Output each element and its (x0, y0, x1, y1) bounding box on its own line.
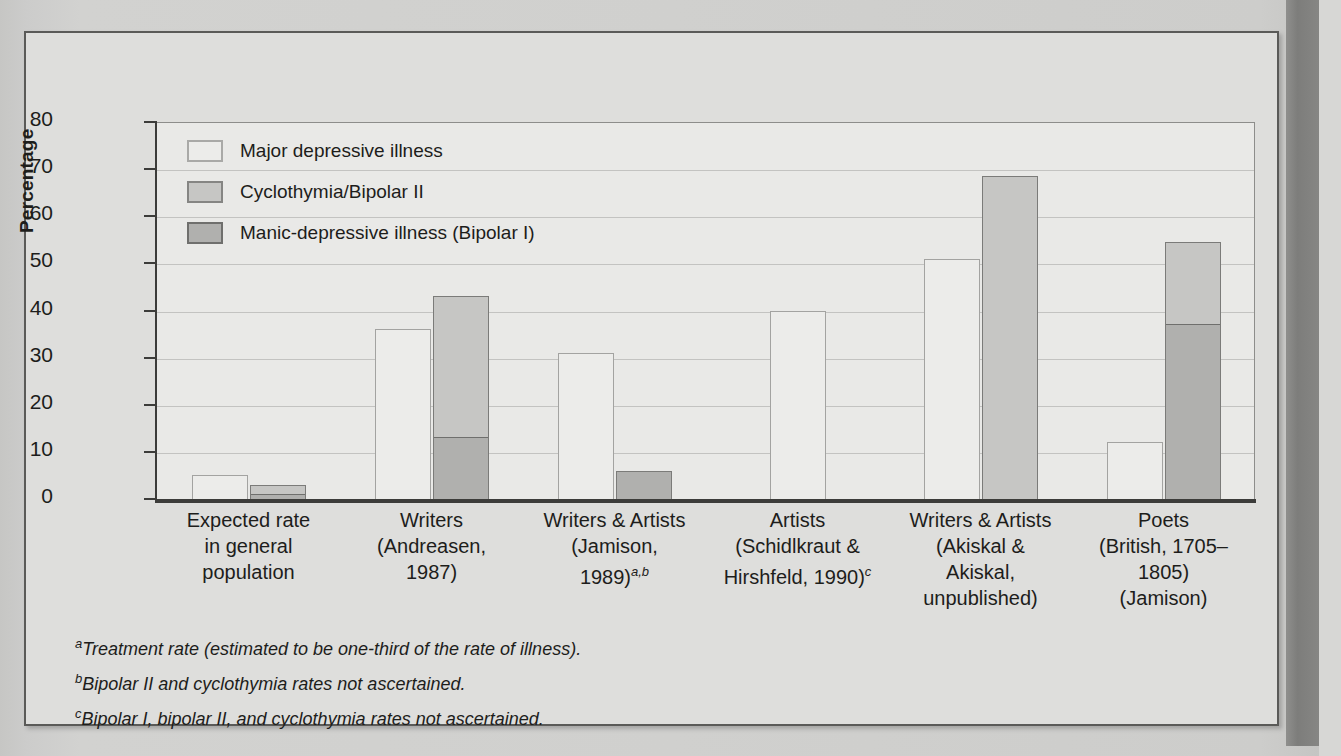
y-axis-tick (144, 168, 155, 170)
y-axis-tick (144, 451, 155, 453)
y-axis-tick-label: 50 (13, 248, 53, 272)
bar-segment (1166, 325, 1220, 499)
y-axis-tick (144, 121, 155, 123)
bar (982, 176, 1038, 499)
x-axis-label-line: Writers (342, 507, 521, 533)
y-axis-tick-label: 30 (13, 343, 53, 367)
x-axis-label-line: (Schidlkraut & (708, 533, 887, 559)
x-axis-label-line: (Jamison, (525, 533, 704, 559)
bar-segment (617, 472, 671, 499)
footnote-marker: c (865, 564, 872, 579)
bar-segment (983, 177, 1037, 499)
x-axis-label-line: Hirshfeld, 1990)c (708, 559, 887, 590)
x-axis-label-line: population (159, 559, 338, 585)
x-axis-label-line: 1987) (342, 559, 521, 585)
bar (616, 471, 672, 499)
gridline (157, 312, 1254, 313)
y-axis-tick-label: 70 (13, 154, 53, 178)
footnote-text: Treatment rate (estimated to be one-thir… (82, 639, 581, 659)
bar-segment (434, 438, 488, 499)
y-axis-tick (144, 404, 155, 406)
bar (558, 353, 614, 499)
bar-segment (434, 297, 488, 438)
y-axis-tick (144, 310, 155, 312)
bar-segment (376, 330, 430, 499)
bar (250, 485, 306, 499)
x-axis-label-line: in general (159, 533, 338, 559)
x-axis-category-labels: Expected ratein generalpopulationWriters… (157, 507, 1255, 627)
x-axis-label-line: Artists (708, 507, 887, 533)
bar (1107, 442, 1163, 499)
y-axis-tick-label: 0 (13, 484, 53, 508)
y-axis-tick-label: 20 (13, 390, 53, 414)
bar-segment (559, 354, 613, 499)
bar (192, 475, 248, 499)
page-gutter-shadow (1286, 0, 1319, 746)
bar (433, 296, 489, 499)
x-axis-label-line: 1989)a,b (525, 559, 704, 590)
gridline (157, 453, 1254, 454)
bar-segment (925, 260, 979, 499)
y-axis-tick (144, 357, 155, 359)
x-axis-label-line: Writers & Artists (891, 507, 1070, 533)
gridline (157, 264, 1254, 265)
x-axis-label-line: Writers & Artists (525, 507, 704, 533)
x-axis-category-label: Writers(Andreasen,1987) (340, 507, 523, 627)
figure-panel: Percentage 01020304050607080 Major depre… (24, 31, 1279, 726)
footnotes: aTreatment rate (estimated to be one-thi… (75, 629, 581, 734)
x-axis-category-label: Artists(Schidlkraut &Hirshfeld, 1990)c (706, 507, 889, 627)
footnote-marker: a,b (631, 564, 649, 579)
y-axis-tick-label: 10 (13, 437, 53, 461)
x-axis-category-label: Writers & Artists(Akiskal &Akiskal,unpub… (889, 507, 1072, 627)
legend-label: Manic-depressive illness (Bipolar I) (240, 222, 535, 244)
bar-segment (1108, 443, 1162, 499)
y-axis-tick (144, 262, 155, 264)
legend-label: Major depressive illness (240, 140, 443, 162)
page-edge (1319, 0, 1341, 756)
x-axis-label-line: unpublished) (891, 585, 1070, 611)
bar-segment (771, 312, 825, 500)
y-axis-tick (144, 498, 155, 500)
x-axis-label-line: Poets (1074, 507, 1253, 533)
x-axis-label-line: Akiskal, (891, 559, 1070, 585)
legend-swatch (187, 140, 223, 162)
legend-item: Cyclothymia/Bipolar II (187, 171, 535, 212)
x-axis-label-line: (Andreasen, (342, 533, 521, 559)
legend-swatch (187, 222, 223, 244)
footnote: aTreatment rate (estimated to be one-thi… (75, 629, 581, 664)
bar (924, 259, 980, 499)
bar (1165, 242, 1221, 499)
footnote: bBipolar II and cyclothymia rates not as… (75, 664, 581, 699)
x-axis-category-label: Writers & Artists(Jamison,1989)a,b (523, 507, 706, 627)
y-axis-tick-label: 40 (13, 296, 53, 320)
y-axis-tick-label: 60 (13, 201, 53, 225)
gridline (157, 406, 1254, 407)
legend-item: Manic-depressive illness (Bipolar I) (187, 212, 535, 253)
bar (375, 329, 431, 499)
x-axis-line (155, 499, 1256, 503)
x-axis-category-label: Expected ratein generalpopulation (157, 507, 340, 627)
legend: Major depressive illnessCyclothymia/Bipo… (187, 130, 535, 253)
footnote: cBipolar I, bipolar II, and cyclothymia … (75, 699, 581, 734)
x-axis-category-label: Poets(British, 1705–1805)(Jamison) (1072, 507, 1255, 627)
x-axis-label-line: (Jamison) (1074, 585, 1253, 611)
bar (770, 311, 826, 500)
bar-segment (1166, 243, 1220, 325)
y-axis-line (155, 121, 157, 501)
footnote-text: Bipolar I, bipolar II, and cyclothymia r… (82, 709, 544, 729)
gridline (157, 359, 1254, 360)
legend-swatch (187, 181, 223, 203)
bar-segment (193, 476, 247, 499)
legend-item: Major depressive illness (187, 130, 535, 171)
bar-segment (251, 486, 305, 495)
legend-label: Cyclothymia/Bipolar II (240, 181, 424, 203)
footnote-text: Bipolar II and cyclothymia rates not asc… (82, 674, 465, 694)
x-axis-label-line: Expected rate (159, 507, 338, 533)
y-axis-tick (144, 215, 155, 217)
y-axis-tick-label: 80 (13, 107, 53, 131)
x-axis-label-line: (British, 1705–1805) (1074, 533, 1253, 585)
x-axis-label-line: (Akiskal & (891, 533, 1070, 559)
